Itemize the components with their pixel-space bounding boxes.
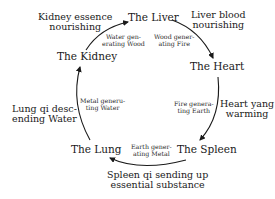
node-kidney: The Kidney: [57, 51, 117, 62]
node-heart: The Heart: [190, 61, 244, 72]
node-spleen: The Spleen: [177, 144, 237, 155]
edge-label-wood-fire: Wood gener- ating Fire: [154, 34, 194, 47]
function-liver: Liver blood nourishing: [191, 10, 246, 30]
edge-label-metal-water: Metal generu- ting Water: [80, 98, 125, 111]
function-kidney: Kidney essence nourishing: [38, 12, 112, 32]
edge-label-earth-metal: Earth gener- ating Metal: [131, 144, 172, 157]
function-heart: Heart yang warming: [220, 99, 274, 119]
arrow-spleen-to-lung: [110, 158, 186, 166]
edge-label-water-wood: Water gen- erating Wood: [102, 34, 145, 47]
function-spleen: Spleen qi sending up essential substance: [107, 170, 208, 190]
function-lung: Lung qi desc- ending Water: [12, 104, 77, 124]
node-liver: The Liver: [128, 12, 179, 23]
edge-label-fire-earth: Fire genera- ting Earth: [174, 101, 214, 114]
node-lung: The Lung: [71, 144, 122, 155]
